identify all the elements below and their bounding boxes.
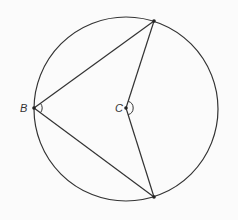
point-b [32, 106, 36, 110]
circle-diagram: B C [0, 0, 238, 220]
label-b: B [20, 102, 27, 114]
radius-c-top [126, 21, 154, 108]
angle-mark-b [41, 103, 43, 112]
point-bottom [152, 195, 156, 199]
angle-mark-c [128, 101, 133, 114]
radius-c-bottom [126, 108, 154, 197]
label-c: C [115, 102, 123, 114]
point-c [124, 106, 128, 110]
chord-b-top [34, 21, 154, 108]
point-top [152, 19, 156, 23]
chord-b-bottom [34, 108, 154, 197]
